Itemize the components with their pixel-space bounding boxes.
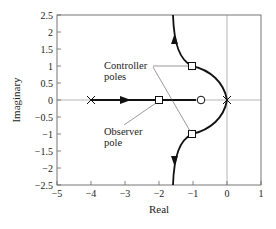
svg-text:−1.5: −1.5 [35,146,53,157]
svg-text:−1: −1 [42,129,53,140]
zero-circle-icon [197,96,205,104]
observer-pole-label: Observer pole [104,126,143,148]
arrow-right-icon [120,96,131,104]
svg-text:0.5: 0.5 [41,78,54,89]
controller-pole-square-icon [189,131,196,138]
svg-text:0: 0 [225,188,230,199]
controller-pole-square-icon [189,63,196,70]
svg-text:−1: −1 [188,188,199,199]
arrow-up-icon [171,34,178,44]
svg-text:−5: −5 [52,188,63,199]
svg-text:−0.5: −0.5 [35,112,53,123]
y-ticks [57,15,61,185]
observer-pole-square-icon [156,97,163,104]
svg-text:2.5: 2.5 [41,10,54,21]
svg-text:1.5: 1.5 [41,44,54,55]
svg-text:Controller: Controller [104,60,148,71]
controller-poles-label: Controller poles [104,60,148,82]
x-axis-title: Real [149,203,169,215]
svg-text:−2: −2 [154,188,165,199]
svg-text:−2: −2 [42,163,53,174]
svg-text:−4: −4 [86,188,97,199]
svg-text:poles: poles [104,71,126,82]
root-locus-chart: −5 −4 −3 −2 −1 0 1 2.5 2 1.5 1 0.5 0 −0.… [0,0,276,229]
x-ticks [57,181,261,185]
svg-text:0: 0 [48,95,53,106]
svg-text:−2.5: −2.5 [35,180,53,191]
svg-text:1: 1 [48,61,53,72]
y-axis-title: Imaginary [10,77,22,123]
x-tick-labels: −5 −4 −3 −2 −1 0 1 [52,188,264,199]
svg-text:−3: −3 [120,188,131,199]
locus-upper-branch [173,15,227,100]
arrow-down-icon [171,156,178,166]
y-tick-labels: 2.5 2 1.5 1 0.5 0 −0.5 −1 −1.5 −2 −2.5 [35,10,53,191]
svg-text:1: 1 [259,188,264,199]
svg-text:pole: pole [104,137,122,148]
svg-text:2: 2 [48,27,53,38]
locus-lower-branch [173,100,227,185]
svg-text:Observer: Observer [104,126,143,137]
